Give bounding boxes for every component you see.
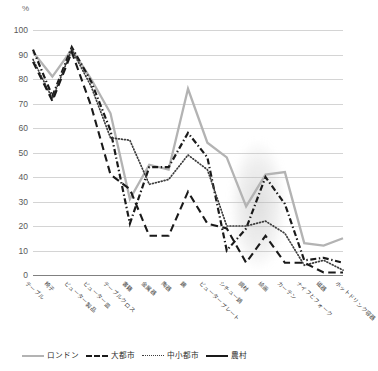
legend-label-1: 大都市	[111, 352, 135, 360]
x-axis-label-7: 陶器	[159, 280, 173, 294]
y-axis-unit-label: %	[22, 4, 29, 13]
gridline-20	[33, 226, 343, 227]
y-tick-label-90: 90	[2, 50, 28, 60]
y-tick-label-30: 30	[2, 197, 28, 207]
y-tick-label-100: 100	[2, 25, 28, 35]
x-axis-label-6: 金属器	[140, 280, 158, 298]
x-axis-label-1: 椅子	[43, 280, 57, 294]
series-line-3	[33, 52, 343, 272]
x-axis-label-16: ホットドリンク容器	[334, 280, 378, 322]
gridline-90	[33, 55, 343, 56]
gridline-70	[33, 104, 343, 105]
legend-key-icon-3	[206, 353, 228, 359]
y-tick-label-40: 40	[2, 172, 28, 182]
gridline-60	[33, 128, 343, 129]
legend-item-2[interactable]: 中小都市	[142, 352, 199, 360]
x-axis-label-5: 書籍	[120, 280, 134, 294]
x-axis-label-12: 絵画	[256, 280, 270, 294]
series-line-1	[33, 47, 343, 263]
y-tick-label-50: 50	[2, 148, 28, 158]
gridline-10	[33, 251, 343, 252]
y-tick-label-10: 10	[2, 246, 28, 256]
gridline-40	[33, 177, 343, 178]
gridline-100	[33, 30, 343, 31]
x-axis-labels: テーブル椅子ビューター製品ビューター皿テーブルクロス書籍金属器陶器鏡ビュータープ…	[0, 276, 351, 356]
highlight-blob	[230, 140, 286, 270]
legend-key-icon-1	[86, 353, 108, 359]
series-line-2	[33, 50, 343, 271]
chart-legend: ロンドン大都市中小都市農村	[22, 352, 247, 360]
y-tick-label-80: 80	[2, 74, 28, 84]
series-line-0	[33, 50, 343, 246]
x-axis-label-8: 鏡	[179, 280, 189, 290]
legend-label-3: 農村	[231, 352, 247, 360]
x-axis-label-13: カーテン	[275, 280, 298, 302]
gridline-30	[33, 202, 343, 203]
legend-label-2: 中小都市	[167, 352, 199, 360]
legend-item-1[interactable]: 大都市	[86, 352, 135, 360]
legend-label-0: ロンドン	[47, 352, 79, 360]
legend-key-icon-0	[22, 353, 44, 359]
x-axis-label-11: 調材	[237, 280, 251, 294]
y-tick-label-70: 70	[2, 99, 28, 109]
y-tick-label-60: 60	[2, 123, 28, 133]
y-tick-label-20: 20	[2, 221, 28, 231]
x-axis-label-0: テーブル	[24, 280, 47, 302]
legend-item-3[interactable]: 農村	[206, 352, 247, 360]
legend-item-0[interactable]: ロンドン	[22, 352, 79, 360]
gridline-50	[33, 153, 343, 154]
x-axis-label-15: 磁器	[314, 280, 328, 294]
legend-key-icon-2	[142, 353, 164, 359]
gridline-80	[33, 79, 343, 80]
